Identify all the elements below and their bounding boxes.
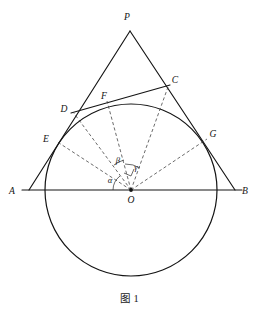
figure-caption: 图 1 (0, 290, 259, 305)
geometry-figure: P A B C D E F G O α β γ 图 1 (0, 0, 259, 315)
radius-OC (131, 87, 168, 190)
point-label-E: E (42, 133, 49, 144)
radius-OD (73, 112, 131, 190)
point-label-G: G (210, 128, 217, 139)
radius-OE (56, 141, 131, 190)
center-point-dot (129, 188, 133, 192)
geometry-canvas: P A B C D E F G O α β γ (0, 0, 259, 315)
point-label-P: P (123, 11, 130, 22)
right-angle-mark-OF (124, 169, 134, 176)
segment-DC (71, 85, 170, 113)
segment-BP (130, 31, 235, 190)
point-label-O: O (128, 194, 135, 205)
angle-arc-alpha (113, 176, 120, 190)
point-label-C: C (172, 74, 179, 85)
point-label-F: F (100, 90, 107, 101)
angle-label-beta: β (115, 155, 121, 165)
angle-label-alpha: α (108, 175, 113, 185)
point-label-A: A (8, 185, 15, 196)
point-label-D: D (60, 103, 68, 114)
radius-OG (131, 139, 207, 190)
angle-arc-gamma (125, 164, 140, 168)
point-label-B: B (242, 185, 248, 196)
